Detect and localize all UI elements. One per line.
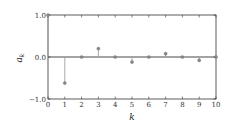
x-tick-label: 10 bbox=[212, 101, 221, 109]
y-axis-label: ak bbox=[14, 53, 25, 62]
y-tick-label: 1.0 bbox=[35, 12, 46, 20]
stem-marker bbox=[147, 55, 150, 58]
stem-marker bbox=[130, 60, 133, 63]
stem-plot: 012345678910 1.00.0−1.0 k ak bbox=[0, 0, 230, 128]
data-stems bbox=[46, 13, 217, 84]
x-tick-label: 7 bbox=[163, 101, 167, 109]
x-tick-label: 2 bbox=[79, 101, 83, 109]
x-tick-label: 4 bbox=[113, 101, 118, 109]
x-tick-label: 0 bbox=[46, 101, 50, 109]
x-tick-label: 8 bbox=[180, 101, 184, 109]
x-tick-label: 1 bbox=[63, 101, 67, 109]
x-tick-label: 9 bbox=[197, 101, 201, 109]
y-tick-label: −1.0 bbox=[29, 96, 46, 104]
stem-marker bbox=[97, 47, 100, 50]
stem-marker bbox=[181, 55, 184, 58]
stem-marker bbox=[80, 55, 83, 58]
x-tick-label: 3 bbox=[96, 101, 100, 109]
stem-marker bbox=[214, 55, 217, 58]
stem-marker bbox=[198, 59, 201, 62]
x-axis-label: k bbox=[129, 112, 134, 122]
stem-marker bbox=[46, 13, 49, 16]
x-tick-label: 6 bbox=[147, 101, 152, 109]
stem-marker bbox=[114, 55, 117, 58]
x-tick-label: 5 bbox=[130, 101, 134, 109]
stem-marker bbox=[63, 81, 66, 84]
stem-marker bbox=[164, 52, 167, 55]
y-tick-label: 0.0 bbox=[35, 54, 46, 62]
y-axis-ticks: 1.00.0−1.0 bbox=[29, 12, 216, 104]
y-axis-label-sub: k bbox=[18, 53, 25, 57]
